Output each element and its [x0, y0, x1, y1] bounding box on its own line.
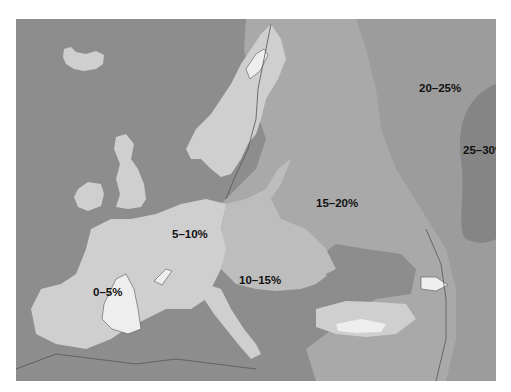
europe-zone-map: 20–25% 25–30% 15–20% 5–10% 10–15% 0–5% — [16, 19, 496, 381]
zone-label-5-10: 5–10% — [172, 228, 208, 240]
zone-label-20-25: 20–25% — [419, 82, 461, 94]
zone-label-10-15: 10–15% — [239, 274, 281, 286]
zone-label-15-20: 15–20% — [316, 197, 358, 209]
zone-label-25-30: 25–30% — [463, 144, 496, 156]
zone-label-0-5: 0–5% — [93, 286, 122, 298]
